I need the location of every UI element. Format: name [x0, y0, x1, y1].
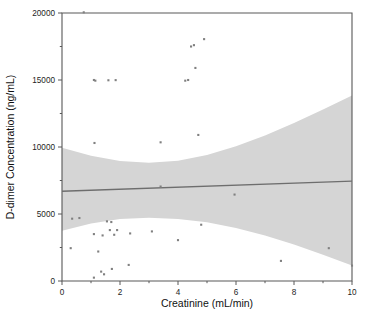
data-point: [110, 221, 112, 223]
data-point: [190, 45, 192, 47]
x-axis-title: Creatinine (mL/min): [161, 297, 253, 309]
data-point: [194, 67, 196, 69]
y-tick-label: 10000: [32, 143, 55, 152]
data-point: [177, 239, 179, 241]
y-tick-label: 15000: [32, 76, 55, 85]
data-point: [203, 38, 205, 40]
data-point: [103, 273, 105, 275]
data-point: [94, 80, 96, 82]
data-point: [160, 185, 162, 187]
data-point: [113, 234, 115, 236]
x-tick-label: 4: [176, 288, 181, 297]
data-point: [200, 224, 202, 226]
data-point: [78, 217, 80, 219]
data-point: [93, 142, 95, 144]
y-axis-title: D-dimer Concentration (ng/mL): [4, 75, 16, 220]
x-tick-label: 10: [347, 288, 357, 297]
data-point: [197, 134, 199, 136]
data-point: [102, 234, 104, 236]
data-point: [351, 265, 353, 267]
x-tick-label: 2: [118, 288, 123, 297]
y-tick-label: 20000: [32, 9, 55, 18]
data-point: [234, 194, 236, 196]
data-point: [328, 247, 330, 249]
data-point: [184, 80, 186, 82]
data-point: [280, 260, 282, 262]
data-point: [100, 271, 102, 273]
data-point: [97, 250, 99, 252]
x-tick-label: 6: [234, 288, 239, 297]
data-point: [109, 229, 111, 231]
data-point: [93, 233, 95, 235]
data-point: [83, 11, 85, 13]
data-point: [116, 229, 118, 231]
data-point: [151, 230, 153, 232]
data-point: [106, 220, 108, 222]
x-tick-label: 8: [292, 288, 297, 297]
data-point: [111, 268, 113, 270]
data-point: [187, 79, 189, 81]
scatter-plot: 0246810 05000100001500020000 Creatinine …: [0, 0, 366, 314]
data-point: [160, 141, 162, 143]
data-point: [193, 44, 195, 46]
y-tick-label: 0: [50, 277, 55, 286]
y-tick-label: 5000: [37, 210, 56, 219]
chart-figure: 0246810 05000100001500020000 Creatinine …: [0, 0, 366, 314]
data-point: [128, 264, 130, 266]
data-point: [70, 247, 72, 249]
x-tick-label: 0: [60, 288, 65, 297]
data-point: [71, 218, 73, 220]
data-point: [115, 79, 117, 81]
data-point: [107, 79, 109, 81]
data-point: [129, 232, 131, 234]
data-point: [93, 277, 95, 279]
